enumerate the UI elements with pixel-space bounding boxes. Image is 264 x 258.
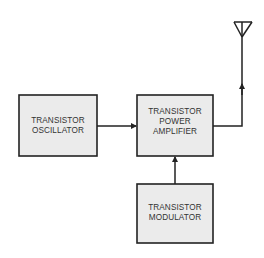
oscillator-block: TRANSISTOR OSCILLATOR xyxy=(19,95,97,156)
amplifier-label-line3: AMPLIFIER xyxy=(153,127,197,136)
oscillator-label-line1: TRANSISTOR xyxy=(31,116,85,125)
amplifier-to-antenna-line xyxy=(213,38,242,126)
modulator-label-line2: MODULATOR xyxy=(149,213,201,222)
amplifier-block: TRANSISTOR POWER AMPLIFIER xyxy=(137,95,213,156)
amplifier-label-line2: POWER xyxy=(159,117,190,126)
modulator-block: TRANSISTOR MODULATOR xyxy=(137,184,213,243)
block-diagram: TRANSISTOR OSCILLATOR TRANSISTOR POWER A… xyxy=(0,0,264,258)
modulator-label-line1: TRANSISTOR xyxy=(148,203,202,212)
amplifier-label-line1: TRANSISTOR xyxy=(148,107,202,116)
antenna-icon xyxy=(234,22,252,38)
oscillator-label-line2: OSCILLATOR xyxy=(32,126,84,135)
